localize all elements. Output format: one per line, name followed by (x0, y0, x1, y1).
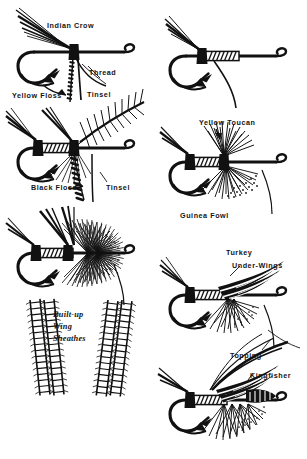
label-tinsel-top: Tinsel (87, 90, 111, 100)
label-yellow-floss: Yellow Floss (12, 91, 62, 101)
figure-step-4 (160, 121, 286, 214)
label-under-wings: Under-Wings (232, 261, 283, 271)
label-black-floss: Black Floss (31, 183, 77, 193)
fly-tying-illustration (0, 0, 307, 459)
figure-step-2 (165, 16, 286, 108)
figure-step-5 (6, 206, 134, 305)
label-indian-crow: Indian Crow (47, 21, 94, 31)
label-yellow-toucan: Yellow Toucan (199, 118, 256, 128)
leader-tinsel-mid (100, 172, 107, 182)
label-built-up: Built-up (53, 310, 83, 321)
illustration-page: Indian Crow Thread Tinsel Yellow Floss B… (0, 0, 307, 459)
label-turkey: Turkey (226, 248, 252, 258)
label-wing: Wing (53, 322, 72, 333)
label-topping: Topping (230, 351, 262, 361)
figure-step-7 (158, 334, 288, 440)
label-sheathes: Sheathes (53, 334, 86, 345)
label-thread: Thread (89, 68, 116, 78)
label-tinsel-mid: Tinsel (106, 183, 130, 193)
label-kingfisher: Kingfisher (250, 371, 291, 381)
label-guinea-fowl: Guinea Fowl (180, 211, 229, 221)
